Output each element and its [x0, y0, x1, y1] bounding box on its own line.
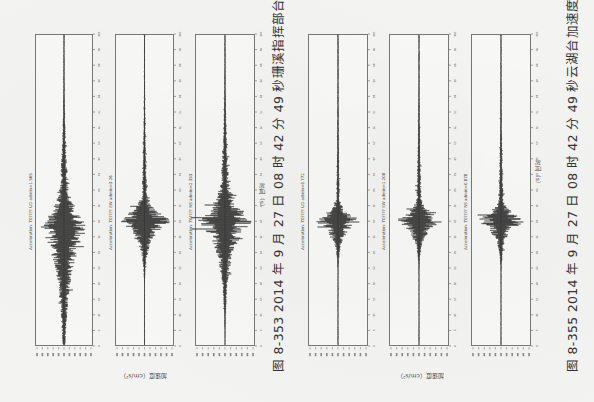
svg-text:5: 5	[372, 330, 375, 332]
svg-text:30: 30	[97, 251, 100, 255]
svg-text:100: 100	[259, 32, 262, 37]
svg-text:5: 5	[259, 330, 262, 332]
svg-text:45: 45	[372, 204, 375, 208]
svg-text:100: 100	[97, 32, 100, 37]
svg-text:55: 55	[178, 173, 181, 177]
svg-text:40: 40	[178, 220, 181, 224]
svg-text:55: 55	[259, 173, 262, 177]
panel-title-3: Acceleration: T0???? NS admin=2.353	[189, 174, 193, 250]
svg-text:35: 35	[178, 235, 181, 239]
svg-text:90: 90	[97, 64, 100, 68]
svg-text:15: 15	[97, 298, 100, 302]
svg-text:50: 50	[535, 188, 538, 192]
svg-text:100: 100	[372, 32, 375, 37]
amplitude-axis-1	[35, 346, 93, 360]
svg-text:55: 55	[97, 173, 100, 177]
svg-text:90: 90	[178, 64, 181, 68]
svg-text:90: 90	[372, 64, 375, 68]
amplitude-axis-label-2: 加速度（cm/s²）	[397, 372, 444, 381]
time-axis-label-1: 时间（s）	[258, 183, 266, 210]
amplitude-axis-label-1: 加速度（cm/s²）	[120, 372, 167, 381]
svg-text:65: 65	[372, 142, 375, 146]
svg-text:75: 75	[453, 110, 456, 114]
svg-text:70: 70	[97, 126, 100, 130]
amplitude-axis-5	[389, 346, 449, 360]
svg-text:10: 10	[372, 313, 375, 317]
svg-text:75: 75	[97, 110, 100, 114]
time-axis-4: 0510152025303540455055606570758085909510…	[368, 34, 378, 346]
time-axis-5: 0510152025303540455055606570758085909510…	[449, 34, 459, 346]
svg-text:80: 80	[259, 95, 262, 99]
svg-text:45: 45	[178, 204, 181, 208]
svg-text:65: 65	[535, 142, 538, 146]
svg-text:95: 95	[535, 48, 538, 52]
svg-text:25: 25	[259, 266, 262, 270]
time-axis-2: 0510152025303540455055606570758085909510…	[174, 34, 184, 346]
svg-text:85: 85	[535, 79, 538, 83]
waveform-panel-6	[471, 34, 531, 346]
svg-text:5: 5	[453, 330, 456, 332]
svg-text:30: 30	[372, 251, 375, 255]
svg-text:70: 70	[453, 126, 456, 130]
panel-title-1: Acceleration: T0???? UD admin=1.565	[29, 173, 33, 250]
svg-text:35: 35	[259, 235, 262, 239]
svg-text:70: 70	[372, 126, 375, 130]
time-axis-label-2: 时间（s）	[534, 160, 542, 187]
svg-text:25: 25	[535, 266, 538, 270]
svg-text:85: 85	[453, 79, 456, 83]
amplitude-axis-3	[195, 346, 255, 360]
svg-text:65: 65	[259, 142, 262, 146]
svg-text:70: 70	[535, 126, 538, 130]
panel-title-4: Acceleration: T0???? UD admin=0.772	[301, 173, 305, 250]
svg-text:20: 20	[372, 282, 375, 286]
svg-text:100: 100	[178, 32, 181, 37]
svg-text:95: 95	[178, 48, 181, 52]
svg-text:25: 25	[178, 266, 181, 270]
svg-text:75: 75	[178, 110, 181, 114]
waveform-panel-1	[35, 34, 93, 346]
waveform-trace	[390, 35, 448, 345]
svg-text:80: 80	[97, 95, 100, 99]
waveform-panel-4	[308, 34, 368, 346]
svg-text:25: 25	[453, 266, 456, 270]
svg-text:5: 5	[178, 330, 181, 332]
svg-text:10: 10	[453, 313, 456, 317]
svg-text:65: 65	[97, 142, 100, 146]
time-axis-1: 0510152025303540455055606570758085909510…	[93, 34, 103, 346]
svg-text:70: 70	[259, 126, 262, 130]
svg-text:100: 100	[535, 32, 538, 37]
svg-text:15: 15	[535, 298, 538, 302]
svg-text:90: 90	[453, 64, 456, 68]
svg-text:10: 10	[178, 313, 181, 317]
svg-text:55: 55	[372, 173, 375, 177]
svg-text:75: 75	[535, 110, 538, 114]
svg-text:60: 60	[97, 157, 100, 161]
panel-title-2: Acceleration: T0???? EW admin=3.26	[109, 175, 113, 250]
svg-text:10: 10	[259, 313, 262, 317]
waveform-trace	[472, 35, 530, 345]
figure-caption-8-355: 图 8-355 2014 年 9 月 27 日 08 时 42 分 49 秒云湖…	[562, 0, 581, 372]
amplitude-axis-2	[115, 346, 174, 360]
svg-text:80: 80	[372, 95, 375, 99]
svg-text:75: 75	[259, 110, 262, 114]
svg-text:75: 75	[372, 110, 375, 114]
svg-text:95: 95	[453, 48, 456, 52]
svg-text:85: 85	[259, 79, 262, 83]
svg-text:35: 35	[453, 235, 456, 239]
svg-text:30: 30	[535, 251, 538, 255]
svg-text:20: 20	[259, 282, 262, 286]
svg-text:40: 40	[97, 220, 100, 224]
svg-text:65: 65	[453, 142, 456, 146]
figure-caption-8-353: 图 8-353 2014 年 9 月 27 日 08 时 42 分 49 秒珊溪…	[268, 0, 287, 372]
waveform-panel-2	[115, 34, 174, 346]
svg-text:5: 5	[97, 330, 100, 332]
waveform-trace	[196, 35, 254, 345]
svg-text:45: 45	[535, 204, 538, 208]
svg-text:80: 80	[178, 95, 181, 99]
svg-text:65: 65	[178, 142, 181, 146]
waveform-panel-5	[389, 34, 449, 346]
svg-text:15: 15	[259, 298, 262, 302]
svg-text:20: 20	[535, 282, 538, 286]
svg-text:20: 20	[178, 282, 181, 286]
panel-title-5: Acceleration: T0???? EW admin=1.208	[382, 173, 386, 250]
